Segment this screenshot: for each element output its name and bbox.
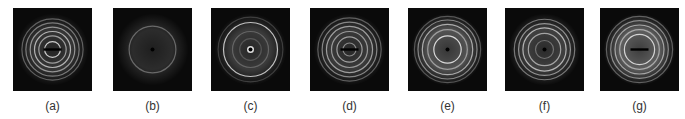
pattern-svg [211,8,290,91]
diffraction-pattern-image [408,8,487,91]
beam-stop [631,48,649,50]
panel-caption: (c) [211,99,290,113]
panel-caption: (g) [600,99,679,113]
panel-caption: (e) [408,99,487,113]
diffraction-pattern-image [13,8,92,91]
panel-caption: (f) [505,99,584,113]
beam-stop [341,48,359,50]
beam-center [543,48,547,52]
diffraction-pattern-image [505,8,584,91]
panel-caption: (d) [310,99,389,113]
pattern-svg [13,8,92,91]
beam-stop [44,48,62,50]
beam-center [446,48,450,52]
diffraction-pattern-image [600,8,679,91]
panel-caption: (b) [113,99,192,113]
diffraction-pattern-image [310,8,389,91]
pattern-svg [505,8,584,91]
beam-center [151,48,155,52]
pattern-svg [113,8,192,91]
diffraction-pattern-image [211,8,290,91]
panel-caption: (a) [13,99,92,113]
diffraction-pattern-image [113,8,192,91]
pattern-svg [310,8,389,91]
pattern-svg [600,8,679,91]
pattern-svg [408,8,487,91]
beam-center [249,48,253,52]
